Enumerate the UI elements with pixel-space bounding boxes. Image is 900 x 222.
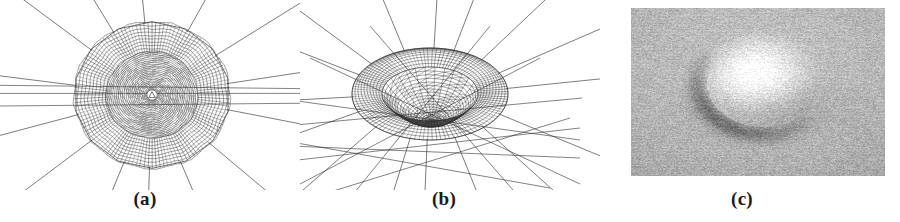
panel-a: (a) [0,0,300,222]
bump-photograph [631,8,885,176]
panel-a-caption: (a) [0,188,295,210]
bump-photograph-canvas [631,8,885,176]
panel-b: (b) [300,0,600,222]
figure-container: (a) (b) (c) [0,0,900,222]
mesh-3d-perspective-diagram [300,0,600,190]
panel-b-caption: (b) [294,188,594,210]
mesh-2d-top-view-diagram [0,0,300,190]
panel-c: (c) [600,0,900,222]
panel-c-caption: (c) [592,188,892,210]
